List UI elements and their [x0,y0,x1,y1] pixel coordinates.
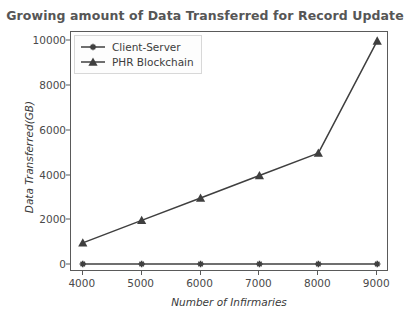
y-axis-label: Data Transferred(GB) [23,57,35,257]
data-point-star [138,261,144,267]
chart-figure: Growing amount of Data Transferred for R… [0,0,410,322]
x-tick-label: 9000 [363,277,390,289]
data-point-triangle [373,36,382,44]
y-tick-label: 10000 [4,34,66,46]
chart-title: Growing amount of Data Transferred for R… [0,8,410,23]
x-axis-label: Number of Infirmaries [70,296,388,308]
x-tick-mark [200,271,201,275]
x-tick-label: 8000 [304,277,331,289]
legend-marker-triangle [79,55,107,69]
y-tick-label: 0 [4,258,66,270]
x-tick-mark [376,271,377,275]
data-point-star [90,43,96,49]
x-tick-label: 4000 [68,277,95,289]
data-point-triangle [314,149,323,157]
x-tick-label: 7000 [245,277,272,289]
x-tick-mark [82,271,83,275]
x-tick-mark [141,271,142,275]
data-point-star [256,261,262,267]
legend-marker-star [79,40,107,54]
data-point-star [374,261,380,267]
x-tick-label: 5000 [127,277,154,289]
x-tick-mark [317,271,318,275]
x-tick-mark [258,271,259,275]
chart-legend: Client-ServerPHR Blockchain [74,35,202,74]
x-tick-label: 6000 [186,277,213,289]
legend-item-2[interactable]: PHR Blockchain [79,54,194,69]
legend-label: Client-Server [112,41,181,53]
y-tick-label: 4000 [4,169,66,181]
y-tick-label: 8000 [4,79,66,91]
legend-item-1[interactable]: Client-Server [79,39,194,54]
y-tick-label: 6000 [4,124,66,136]
legend-label: PHR Blockchain [112,56,194,68]
plot-area: Client-ServerPHR Blockchain [70,31,388,271]
data-point-star [197,261,203,267]
data-point-star [80,261,86,267]
data-point-star [315,261,321,267]
y-tick-label: 2000 [4,213,66,225]
